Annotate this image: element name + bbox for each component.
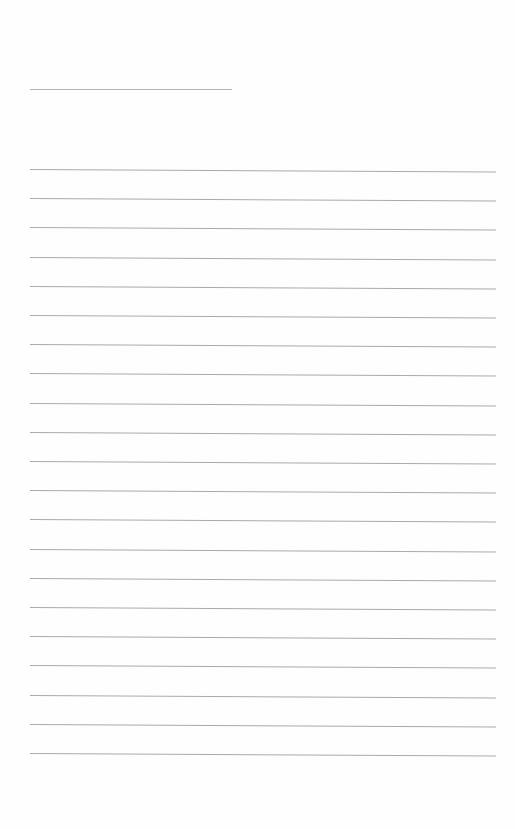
writing-line [30, 607, 496, 610]
writing-line [30, 665, 496, 668]
writing-line [30, 461, 496, 464]
writing-line [30, 198, 496, 201]
writing-line [30, 724, 496, 727]
lined-page [0, 0, 515, 829]
writing-line [30, 549, 496, 552]
writing-line [30, 227, 496, 230]
writing-line [30, 373, 496, 376]
writing-line [30, 636, 496, 639]
writing-line [30, 695, 496, 698]
writing-line [30, 257, 496, 260]
writing-line [30, 753, 496, 756]
writing-line [30, 169, 496, 172]
header-field-line [30, 89, 232, 90]
writing-line [30, 286, 496, 289]
writing-line [30, 344, 496, 347]
writing-line [30, 490, 496, 493]
writing-line [30, 578, 496, 581]
writing-line [30, 403, 496, 406]
writing-line [30, 315, 496, 318]
writing-line [30, 432, 496, 435]
writing-line [30, 519, 496, 522]
